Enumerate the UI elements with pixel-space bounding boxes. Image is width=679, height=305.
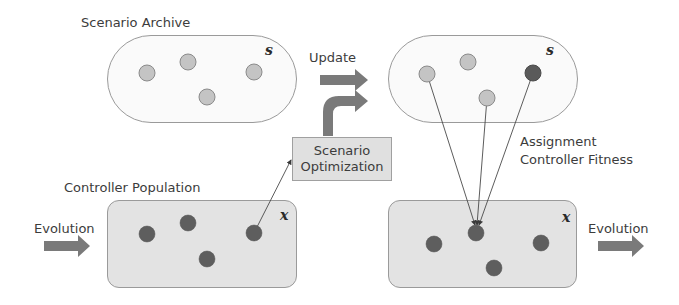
evolution-arrow-left-icon — [44, 235, 90, 257]
evolution-arrow-right-icon — [598, 235, 644, 257]
controller-nodes-right — [426, 225, 549, 276]
scenario-nodes-left — [139, 54, 262, 105]
controller-nodes-left — [139, 215, 262, 267]
scenario-nodes-right — [419, 54, 541, 106]
update-arrow-icon — [320, 69, 368, 91]
optimization-to-archive-arrow-icon — [323, 90, 368, 136]
controller-to-optimization-connector — [256, 160, 291, 229]
diagram-graphics — [0, 0, 679, 305]
